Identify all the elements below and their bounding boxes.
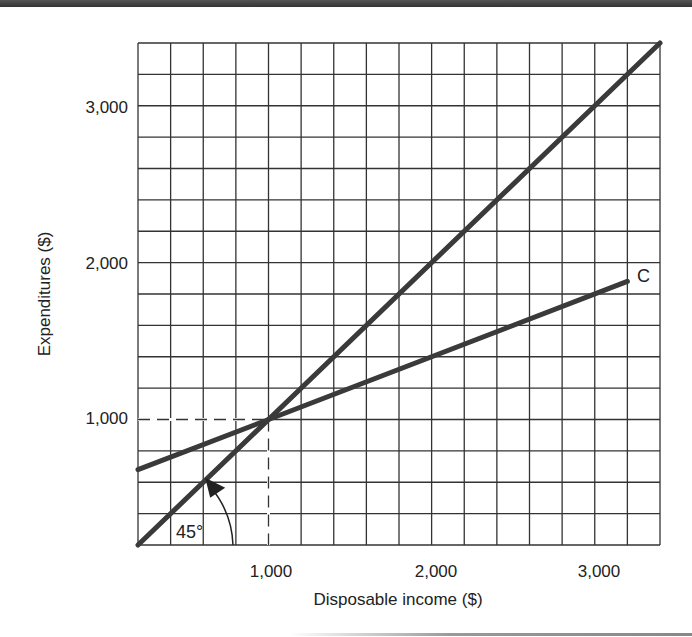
chart-canvas: 1,000 2,000 3,000 3,000 2,000 1,000 Disp… [0, 0, 692, 637]
y-axis-label: Expenditures ($) [35, 232, 54, 357]
angle-arc [211, 488, 233, 545]
y-tick-1000: 1,000 [85, 409, 128, 428]
bottom-border-rule [290, 633, 692, 636]
x-tick-2000: 2,000 [415, 562, 458, 581]
y-tick-2000: 2,000 [85, 254, 128, 273]
x-tick-3000: 3,000 [578, 562, 621, 581]
x-axis-label: Disposable income ($) [313, 590, 482, 609]
arrowhead-icon [205, 478, 225, 498]
angle-label: 45° [176, 522, 203, 542]
angle-annotation [205, 478, 233, 545]
y-tick-3000: 3,000 [85, 98, 128, 117]
consumption-line-label: C [637, 266, 650, 286]
x-tick-1000: 1,000 [250, 562, 293, 581]
